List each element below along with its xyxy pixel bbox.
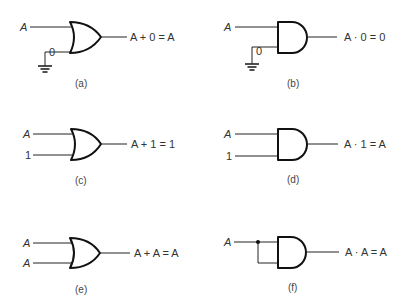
input-label: 0 <box>49 46 55 58</box>
expression: A · 0 = 0 <box>344 31 385 43</box>
tied-input-wire <box>258 242 278 263</box>
junction-dot <box>256 240 260 244</box>
caption: (b) <box>287 78 299 89</box>
and-gate <box>278 129 307 160</box>
expression: A · 1 = A <box>344 138 387 150</box>
input-label: A <box>22 128 30 140</box>
input-label: 0 <box>256 45 262 57</box>
caption: (f) <box>288 282 297 293</box>
and-gate <box>278 237 306 268</box>
ground-icon <box>245 64 259 70</box>
caption: (c) <box>75 175 87 186</box>
caption: (a) <box>75 78 87 89</box>
panel-a: A 0 A + 0 = A (a) <box>19 21 175 89</box>
caption: (d) <box>287 174 299 185</box>
input-label: 1 <box>25 149 31 161</box>
expression: A + 1 = 1 <box>131 138 175 150</box>
boolean-identities-diagram: A 0 A + 0 = A (a) A 0 A · 0 = 0 (b) A 1 … <box>0 0 411 308</box>
input-label: A <box>223 128 231 140</box>
or-gate <box>70 238 100 268</box>
caption: (e) <box>75 284 87 295</box>
input-label: A <box>22 257 30 269</box>
panel-b: A 0 A · 0 = 0 (b) <box>223 21 385 89</box>
input-label: A <box>19 21 27 33</box>
and-gate <box>278 22 307 53</box>
expression: A + 0 = A <box>130 31 175 43</box>
expression: A · A = A <box>345 246 388 258</box>
input-label: A <box>223 21 231 33</box>
input-label: 1 <box>226 150 232 162</box>
panel-f: A A · A = A (f) <box>223 236 388 293</box>
input-label: A <box>22 237 30 249</box>
ground-icon <box>38 66 52 72</box>
panel-d: A 1 A · 1 = A (d) <box>223 128 387 185</box>
panel-c: A 1 A + 1 = 1 (c) <box>22 128 175 186</box>
or-gate <box>71 129 101 160</box>
or-gate <box>70 22 101 53</box>
expression: A + A = A <box>134 247 179 259</box>
input-label: A <box>223 236 231 248</box>
panel-e: A A A + A = A (e) <box>22 237 179 295</box>
